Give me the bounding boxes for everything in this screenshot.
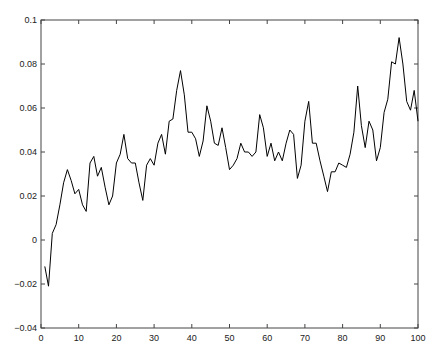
y-tick-label: 0.04 — [19, 147, 37, 157]
x-tick-label: 0 — [38, 333, 43, 343]
x-tick-label: 90 — [375, 333, 385, 343]
line-chart: 0102030405060708090100 −0.04−0.0200.020.… — [0, 0, 440, 359]
y-tick-label: −0.04 — [14, 323, 37, 333]
x-tick-label: 100 — [410, 333, 425, 343]
y-tick-label: 0 — [32, 235, 37, 245]
x-tick-label: 60 — [262, 333, 272, 343]
x-tick-label: 10 — [74, 333, 84, 343]
y-tick-label: 0.06 — [19, 103, 37, 113]
x-tick-label: 80 — [338, 333, 348, 343]
y-tick-label: 0.02 — [19, 191, 37, 201]
y-tick-label: 0.08 — [19, 59, 37, 69]
x-tick-label: 50 — [224, 333, 234, 343]
x-tick-label: 40 — [187, 333, 197, 343]
x-tick-label: 30 — [149, 333, 159, 343]
x-tick-label: 20 — [111, 333, 121, 343]
y-tick-label: −0.02 — [14, 279, 37, 289]
x-tick-label: 70 — [300, 333, 310, 343]
y-tick-label: 0.1 — [24, 15, 37, 25]
